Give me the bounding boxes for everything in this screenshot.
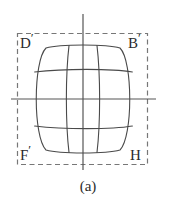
corner-label-top-right: B′	[128, 36, 141, 51]
figure-drawing	[0, 0, 176, 208]
corner-label-bottom-right: H	[130, 148, 141, 163]
prime-mark-top-right: ′	[138, 30, 141, 45]
figure-panel: D′ B′ F′ H (a)	[0, 0, 176, 208]
corner-label-top-right-text: B	[128, 35, 138, 51]
corner-label-top-left-text: D	[20, 35, 31, 51]
corner-label-bottom-left: F′	[20, 148, 31, 163]
corner-label-top-left: D′	[20, 36, 34, 51]
figure-caption: (a)	[0, 178, 176, 195]
prime-mark-bottom-left: ′	[28, 142, 31, 157]
prime-mark-top-left: ′	[31, 30, 34, 45]
corner-label-bottom-right-text: H	[130, 147, 141, 163]
